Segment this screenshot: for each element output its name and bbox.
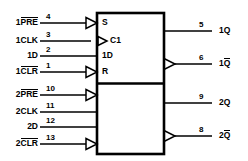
pin-number-qbar-2: 8 — [199, 126, 203, 134]
pin-number-data-1: 2 — [46, 46, 50, 54]
output-label-qbar-2: 2Q — [219, 131, 230, 140]
negation-triangle-qbar-2 — [164, 131, 175, 142]
negation-triangle-clear-2 — [86, 139, 97, 150]
pin-number-data-2: 12 — [46, 117, 55, 125]
pin-number-preset-2: 10 — [46, 85, 55, 93]
input-label-preset-1: 1PRE — [0, 18, 38, 27]
input-label-data-2: 2D — [0, 122, 38, 131]
inner-label-set-1: S — [102, 18, 108, 27]
output-label-q-2: 2Q — [219, 98, 230, 107]
overbar-clear-2: CLR — [21, 139, 38, 148]
pin-number-clock-1: 3 — [46, 31, 50, 39]
input-label-clock-2: 2CLK — [0, 107, 38, 116]
symbol-body — [97, 13, 164, 154]
logic-symbol-diagram: 1PRE 1CLK 1D 1CLR 4 3 2 1 S C1 1D R 5 1Q… — [0, 0, 248, 161]
pin-number-preset-1: 4 — [46, 13, 50, 21]
pin-number-clear-1: 1 — [46, 62, 50, 70]
overbar-preset-2: PRE — [21, 90, 38, 99]
pin-number-clear-2: 13 — [46, 134, 55, 142]
inner-label-c1-1: C1 — [110, 36, 121, 45]
input-label-clear-2: 2CLR — [0, 139, 38, 148]
negation-triangle-clear-1 — [86, 67, 97, 78]
input-label-data-1: 1D — [0, 51, 38, 60]
pin-number-qbar-1: 6 — [199, 54, 203, 62]
output-label-q-1: 1Q — [219, 26, 230, 35]
negation-indicator-qbar-1 — [164, 59, 175, 70]
overbar-qbar-2: Q — [224, 131, 231, 140]
overbar-preset-1: PRE — [21, 18, 38, 27]
negation-triangle-qbar-1 — [164, 59, 175, 70]
negation-triangle-preset-1 — [86, 18, 97, 29]
pin-number-clock-2: 11 — [46, 102, 54, 110]
input-label-clock-1: 1CLK — [0, 36, 38, 45]
pin-number-q-2: 9 — [199, 93, 203, 101]
overbar-qbar-1: Q — [224, 59, 231, 68]
negation-indicators-section-2 — [86, 90, 97, 150]
negation-indicator-qbar-2 — [164, 131, 175, 142]
input-label-clear-1: 1CLR — [0, 67, 38, 76]
input-label-preset-2: 2PRE — [0, 90, 38, 99]
output-label-qbar-1: 1Q — [219, 59, 230, 68]
dynamic-input-triangle-clock-1 — [98, 37, 107, 46]
inner-label-reset-1: R — [102, 67, 108, 76]
overbar-clear-1: CLR — [21, 67, 38, 76]
pin-number-q-1: 5 — [199, 21, 203, 29]
output-lines-section-2 — [164, 103, 212, 136]
negation-triangle-preset-2 — [86, 90, 97, 101]
output-lines-section-1 — [164, 31, 212, 64]
inner-label-d-1: 1D — [102, 51, 113, 60]
